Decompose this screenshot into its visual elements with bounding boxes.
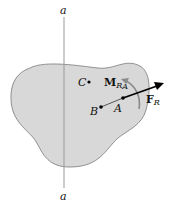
point-b-dot [99,105,103,109]
point-a-label: A [113,102,122,115]
diagram-canvas: a a C B A MRA FR [0,0,179,214]
force-arrowhead-icon [154,82,164,90]
point-b-label: B [89,105,98,118]
axis-label-top: a [60,4,67,17]
point-c-label: C [78,76,87,89]
point-a-dot [121,96,125,100]
axis-label-bottom: a [60,190,67,203]
point-c-dot [87,80,90,83]
force-label: FR [146,93,160,107]
